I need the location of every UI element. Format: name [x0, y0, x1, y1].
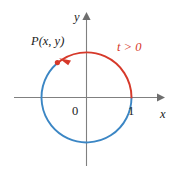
origin-label: 0 — [72, 104, 78, 118]
point-p-dot — [55, 60, 60, 65]
y-axis-arrowhead — [82, 12, 90, 20]
direction-arrowhead-icon — [59, 58, 71, 65]
point-p-label: P(x, y) — [30, 34, 64, 48]
parameter-t-label: t > 0 — [117, 40, 142, 54]
x-axis-arrowhead — [157, 93, 165, 101]
y-axis-label: y — [72, 10, 80, 24]
x-tick-label-one: 1 — [128, 104, 134, 118]
unit-circle-figure: P(x, y) t > 0 0 1 x y — [0, 0, 188, 182]
x-axis-label: x — [159, 107, 166, 121]
circle-arc-red — [57, 52, 132, 97]
unit-circle-diagram: P(x, y) t > 0 0 1 x y — [0, 0, 188, 182]
